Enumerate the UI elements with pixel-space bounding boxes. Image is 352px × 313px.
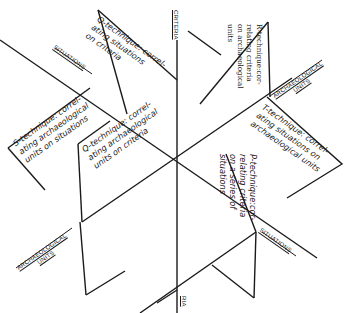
- lower-bottom-notch: [157, 290, 177, 303]
- lower-diagonal: [140, 232, 256, 313]
- q-units-panel-left-edge: [78, 144, 82, 222]
- panel-line: R-technique:cor-: [255, 24, 265, 89]
- technique-cube-diagram: CRITERIA RIA SITUATIONS SITUATIONS ARCHA…: [0, 0, 352, 313]
- upper-flap: [188, 31, 221, 55]
- panel-line: P-technique:cor-: [248, 154, 258, 220]
- criteria-axis-label-top: CRITERIA: [172, 10, 179, 40]
- r-technique-panel-text: R-technique:cor- relating criteria on ar…: [226, 24, 264, 89]
- criteria-axis-label-bottom: RIA: [180, 296, 187, 307]
- lower-right-bottom: [212, 265, 254, 298]
- lower-left-vertical: [80, 222, 86, 295]
- panel-line: on archaeological: [236, 24, 246, 89]
- lower-right-vertical: [254, 232, 256, 298]
- lower-left-bottom: [86, 271, 125, 295]
- p-technique-panel-text: P-technique:cor- relating criteria on a …: [218, 154, 258, 220]
- panel-line: units: [226, 24, 236, 89]
- panel-line: relating criteria: [238, 154, 248, 220]
- panel-line: relating criteria: [245, 24, 255, 89]
- panel-line: on a series of: [228, 154, 238, 220]
- panel-line: situations: [218, 154, 228, 220]
- r-panel-edge: [268, 22, 270, 97]
